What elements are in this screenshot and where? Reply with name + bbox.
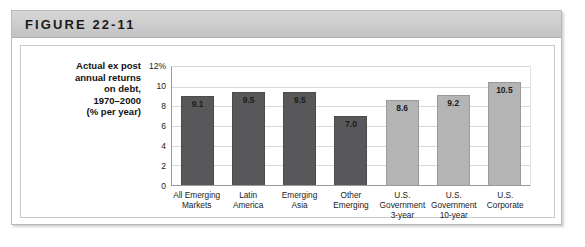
y-tick-4: 4: [161, 142, 166, 151]
y-tick-12: 12%: [149, 62, 166, 71]
bar-value-label: 8.6: [387, 104, 418, 113]
x-axis-label: EmergingAsia: [274, 190, 325, 220]
x-axis-label: OtherEmerging: [325, 190, 376, 220]
bar[interactable]: 10.5: [488, 82, 521, 185]
x-axis-label: U.S.Government3-year: [377, 190, 428, 220]
bar-value-label: 9.2: [438, 99, 469, 108]
figure-title: FIGURE 22-11: [25, 17, 135, 32]
bar-slot: 9.5: [274, 67, 325, 185]
figure-frame: FIGURE 22-11 Actual ex post annual retur…: [11, 10, 562, 225]
x-axis-label: LatinAmerica: [222, 190, 273, 220]
x-axis-label: All EmergingMarkets: [171, 190, 222, 220]
bar[interactable]: 7.0: [334, 116, 367, 185]
bar[interactable]: 9.1: [181, 96, 214, 185]
y-axis-caption-line-1: Actual ex post: [29, 60, 141, 72]
bar-slot: 10.5: [479, 67, 530, 185]
figure-caption: [14, 236, 534, 247]
bar[interactable]: 9.5: [232, 92, 265, 185]
y-tick-8: 8: [161, 102, 166, 111]
bar[interactable]: 9.5: [283, 92, 316, 185]
y-axis-caption-line-5: (% per year): [29, 106, 141, 118]
y-axis-caption-line-4: 1970–2000: [29, 95, 141, 107]
x-axis-label-line: Corporate: [480, 200, 531, 210]
bar-value-label: 10.5: [489, 86, 520, 95]
x-axis-label-line: Emerging: [274, 190, 325, 200]
x-axis-label-line: Latin: [222, 190, 273, 200]
bars-container: 9.19.59.57.08.69.210.5: [172, 67, 530, 185]
y-axis-caption: Actual ex post annual returns on debt, 1…: [29, 60, 141, 118]
y-tick-0: 0: [161, 182, 166, 191]
x-axis-label-line: Markets: [171, 200, 222, 210]
x-axis-labels: All EmergingMarketsLatinAmericaEmergingA…: [171, 190, 531, 220]
y-axis-caption-line-3: on debt,: [29, 83, 141, 95]
x-axis-label-line: 10-year: [428, 210, 479, 220]
bar-slot: 9.2: [428, 67, 479, 185]
x-axis-label-line: U.S.: [428, 190, 479, 200]
bar-value-label: 9.5: [233, 96, 264, 105]
x-axis-label-line: America: [222, 200, 273, 210]
figure-header-band: FIGURE 22-11: [12, 11, 561, 38]
y-axis-ticks: 12% 10 8 6 4 2 0: [145, 66, 169, 186]
x-axis-label-line: All Emerging: [171, 190, 222, 200]
bar[interactable]: 9.2: [437, 95, 470, 185]
x-axis-label-line: U.S.: [480, 190, 531, 200]
figure-panel: Actual ex post annual returns on debt, 1…: [20, 45, 555, 218]
x-axis-label-line: Asia: [274, 200, 325, 210]
x-axis-label-line: Government: [428, 200, 479, 210]
x-axis-label: U.S.Government10-year: [428, 190, 479, 220]
x-axis-label: U.S.Corporate: [480, 190, 531, 220]
x-axis-label-line: 3-year: [377, 210, 428, 220]
bar-slot: 9.5: [223, 67, 274, 185]
x-axis-label-line: Emerging: [325, 200, 376, 210]
bar[interactable]: 8.6: [386, 100, 419, 185]
bar-value-label: 7.0: [335, 120, 366, 129]
bar-slot: 8.6: [377, 67, 428, 185]
bar-slot: 7.0: [325, 67, 376, 185]
bar-chart: 12% 10 8 6 4 2 0 9.19.59.57.08.69.210.5 …: [145, 66, 533, 209]
y-tick-2: 2: [161, 162, 166, 171]
bar-value-label: 9.1: [182, 100, 213, 109]
y-tick-6: 6: [161, 122, 166, 131]
plot-area: 9.19.59.57.08.69.210.5: [171, 66, 531, 186]
y-tick-10: 10: [157, 82, 166, 91]
x-axis-label-line: U.S.: [377, 190, 428, 200]
bar-value-label: 9.5: [284, 96, 315, 105]
y-axis-caption-line-2: annual returns: [29, 72, 141, 84]
x-axis-label-line: Other: [325, 190, 376, 200]
bar-slot: 9.1: [172, 67, 223, 185]
x-axis-label-line: Government: [377, 200, 428, 210]
